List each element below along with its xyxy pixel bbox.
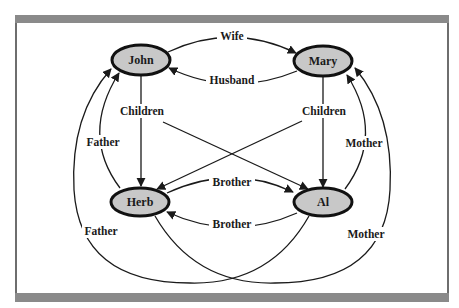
edge-father-al-john (74, 69, 309, 283)
edge-mother-herb-mary (155, 68, 390, 283)
node-mary: Mary (294, 46, 352, 76)
svg-text:Father: Father (86, 136, 119, 148)
label-father-outer: Father (82, 224, 120, 238)
label-husband: Husband (206, 73, 258, 87)
svg-text:Children: Children (302, 105, 346, 117)
svg-text:Brother: Brother (213, 176, 252, 188)
label-children-left: Children (118, 104, 166, 118)
node-herb: Herb (111, 188, 169, 216)
svg-text:Herb: Herb (127, 195, 154, 209)
edge-mother-al-mary (345, 75, 366, 189)
label-mother-inner: Mother (343, 136, 385, 150)
svg-text:Brother: Brother (213, 218, 252, 230)
svg-text:Children: Children (120, 105, 164, 117)
node-al: Al (294, 188, 352, 216)
edge-father-herb-john (100, 73, 120, 188)
label-children-right: Children (300, 104, 348, 118)
label-brother-bottom: Brother (209, 217, 255, 231)
svg-text:Mary: Mary (309, 54, 338, 68)
svg-text:Husband: Husband (210, 74, 255, 86)
label-brother-top: Brother (209, 175, 255, 189)
node-john: John (112, 45, 170, 75)
svg-text:Wife: Wife (220, 30, 243, 42)
svg-text:Al: Al (317, 195, 330, 209)
label-wife: Wife (217, 29, 247, 43)
svg-text:Mother: Mother (345, 137, 382, 149)
label-father-inner: Father (84, 135, 122, 149)
label-mother-outer: Mother (345, 227, 387, 241)
svg-text:John: John (128, 53, 154, 67)
family-diagram: Wife Husband Children Children Brother B… (0, 0, 459, 308)
svg-text:Father: Father (84, 225, 117, 237)
svg-text:Mother: Mother (347, 228, 384, 240)
